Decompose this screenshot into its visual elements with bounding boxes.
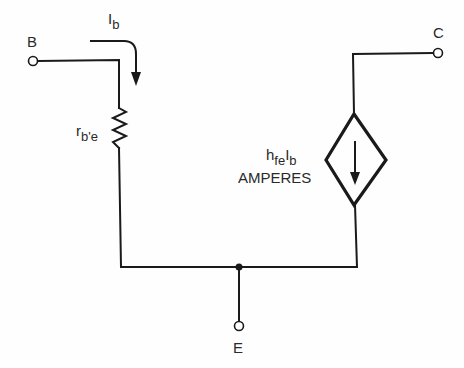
source-value-label: hfeIb <box>266 146 297 168</box>
emitter-terminal <box>235 322 244 331</box>
base-wire <box>38 60 119 108</box>
emitter-label: E <box>233 339 243 356</box>
source-arrow-head <box>350 172 360 185</box>
base-label: B <box>27 33 37 50</box>
base-terminal <box>29 57 38 66</box>
current-label: Ib <box>108 10 119 32</box>
collector-terminal <box>434 49 443 58</box>
junction-dot <box>236 264 243 271</box>
current-arrow-head <box>131 72 141 86</box>
source-unit-label: AMPERES <box>238 169 311 186</box>
resistor-rbe <box>113 108 126 148</box>
collector-label: C <box>433 24 444 41</box>
hybrid-pi-equivalent-circuit: B C E Ib rb'e hfeIb AMPERES <box>0 0 464 368</box>
collector-wire <box>353 53 433 114</box>
resistor-label: rb'e <box>76 122 98 144</box>
circuit-diagram: B C E Ib rb'e hfeIb AMPERES <box>0 0 464 368</box>
current-arrow-ib <box>90 41 136 74</box>
resistor-to-ground-wire <box>119 148 357 267</box>
